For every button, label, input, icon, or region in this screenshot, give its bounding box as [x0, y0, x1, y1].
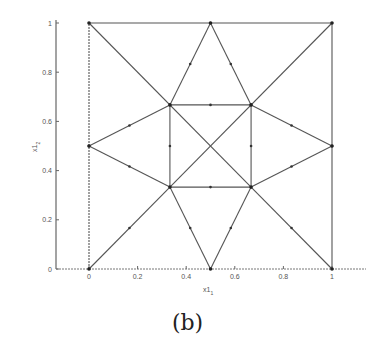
- edge-midpoint: [128, 124, 131, 127]
- mesh-plot: 00.20.40.60.8100.20.40.60.81 x11 x12: [0, 0, 375, 363]
- figure-caption: (b): [0, 310, 375, 335]
- y-axis-label: x12: [31, 142, 41, 152]
- mesh-node: [330, 144, 334, 148]
- edge-midpoint: [290, 227, 293, 230]
- edge-midpoint: [229, 227, 232, 230]
- mesh-node: [209, 267, 213, 271]
- mesh-node: [168, 103, 172, 107]
- y-tick-label: 1: [48, 20, 52, 27]
- edge-midpoint: [250, 145, 253, 148]
- y-tick-label: 0.8: [42, 69, 52, 76]
- mesh-edges: [88, 22, 334, 269]
- mesh-node: [330, 21, 334, 25]
- mesh-node: [87, 267, 91, 271]
- edge-midpoint: [189, 227, 192, 230]
- mesh-node: [249, 103, 253, 107]
- axes: 00.20.40.60.8100.20.40.60.81: [42, 20, 366, 281]
- edge-midpoint: [290, 165, 293, 168]
- mesh-node: [168, 185, 172, 189]
- x-axis-label: x11: [203, 286, 213, 296]
- edge-midpoint: [128, 227, 131, 230]
- x-tick-label: 0.2: [133, 273, 143, 280]
- x-tick-label: 0.4: [181, 273, 191, 280]
- y-tick-label: 0.4: [42, 167, 52, 174]
- y-tick-label: 0: [48, 266, 52, 273]
- x-tick-label: 1: [330, 273, 334, 280]
- edge-midpoint: [169, 145, 172, 148]
- edge-midpoint: [209, 104, 212, 107]
- x-tick-label: 0.6: [230, 273, 240, 280]
- mesh-node: [87, 144, 91, 148]
- y-tick-label: 0.2: [42, 216, 52, 223]
- x-tick-label: 0: [87, 273, 91, 280]
- mesh-node: [209, 21, 213, 25]
- edge-midpoint: [128, 165, 131, 168]
- edge-midpoint: [290, 124, 293, 127]
- edge-midpoint: [229, 63, 232, 66]
- mesh-node: [330, 267, 334, 271]
- mesh-node: [87, 21, 91, 25]
- mesh-node: [249, 185, 253, 189]
- x-tick-label: 0.8: [279, 273, 289, 280]
- edge-midpoint: [189, 63, 192, 66]
- edge-midpoint: [209, 186, 212, 189]
- y-tick-label: 0.6: [42, 118, 52, 125]
